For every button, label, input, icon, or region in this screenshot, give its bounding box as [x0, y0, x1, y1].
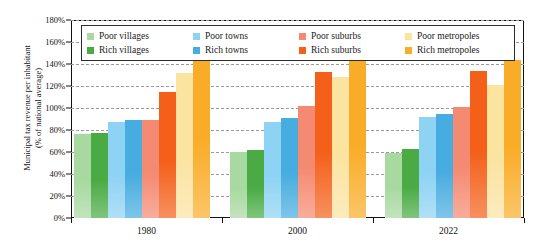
chart-legend: Poor villagesPoor townsPoor suburbsPoor …	[81, 25, 515, 61]
legend-swatch-icon	[299, 33, 306, 40]
x-axis-tick-mark	[71, 218, 72, 223]
bar	[385, 153, 402, 218]
legend-swatch-icon	[193, 33, 200, 40]
legend-label: Rich towns	[205, 43, 248, 57]
legend-item: Poor villages	[87, 29, 191, 43]
chart-container: Municipal tax revenue per inhabitant (% …	[0, 0, 537, 250]
legend-swatch-icon	[87, 47, 94, 54]
bar	[142, 120, 159, 218]
bar	[74, 134, 91, 218]
bar	[298, 106, 315, 218]
legend-item: Rich metropoles	[405, 43, 509, 57]
x-axis-tick-mark	[373, 218, 374, 223]
bar	[453, 107, 470, 218]
legend-item: Rich suburbs	[299, 43, 403, 57]
bar	[470, 71, 487, 218]
bar	[349, 57, 366, 218]
bar	[332, 77, 349, 218]
bar	[504, 60, 521, 218]
bar	[419, 117, 436, 218]
y-axis-tick-label: 180%	[45, 15, 65, 25]
legend-label: Rich suburbs	[311, 43, 361, 57]
bar	[193, 45, 210, 218]
bar	[91, 133, 108, 218]
y-axis-tick-label: 40%	[49, 169, 65, 179]
x-axis-tick-label: 1980	[137, 226, 156, 236]
legend-label: Rich villages	[99, 43, 149, 57]
x-axis-tick-mark	[524, 218, 525, 223]
legend-item: Rich villages	[87, 43, 191, 57]
bar	[281, 118, 298, 218]
legend-label: Poor towns	[205, 29, 248, 43]
legend-swatch-icon	[405, 33, 412, 40]
legend-swatch-icon	[405, 47, 412, 54]
bar	[230, 152, 247, 218]
bar	[264, 122, 281, 218]
legend-item: Poor suburbs	[299, 29, 403, 43]
y-axis-tick-label: 0%	[54, 213, 65, 223]
bar	[487, 85, 504, 218]
bar	[436, 114, 453, 219]
legend-swatch-icon	[87, 33, 94, 40]
legend-label: Poor villages	[99, 29, 149, 43]
x-axis-tick-label: 2022	[439, 226, 458, 236]
bar	[125, 120, 142, 218]
y-axis-tick-label: 120%	[45, 81, 65, 91]
y-axis-tick-label: 80%	[49, 125, 65, 135]
x-axis-tick-label: 2000	[288, 226, 307, 236]
bar	[402, 149, 419, 218]
y-axis-title: Municipal tax revenue per inhabitant (% …	[22, 13, 44, 203]
bar	[247, 150, 264, 218]
y-axis-tick-label: 20%	[49, 191, 65, 201]
legend-item: Rich towns	[193, 43, 297, 57]
bar	[176, 73, 193, 218]
legend-item: Poor towns	[193, 29, 297, 43]
bar	[108, 122, 125, 218]
legend-swatch-icon	[299, 47, 306, 54]
legend-label: Rich metropoles	[417, 43, 480, 57]
legend-swatch-icon	[193, 47, 200, 54]
bar	[315, 72, 332, 218]
y-axis-tick-label: 160%	[45, 37, 65, 47]
x-axis-tick-mark	[222, 218, 223, 223]
y-axis-tick-label: 60%	[49, 147, 65, 157]
y-axis-tick-label: 140%	[45, 59, 65, 69]
legend-label: Poor suburbs	[311, 29, 361, 43]
y-axis-tick-label: 100%	[45, 103, 65, 113]
legend-item: Poor metropoles	[405, 29, 509, 43]
bar	[159, 92, 176, 219]
legend-label: Poor metropoles	[417, 29, 480, 43]
